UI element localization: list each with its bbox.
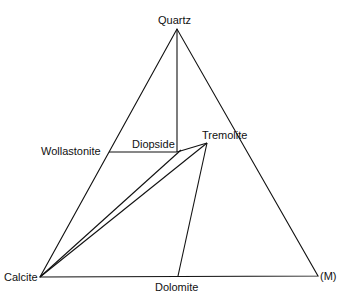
phase-label-tremolite: Tremolite [202,129,247,141]
tie-line-calcite-diopside [40,150,181,277]
vertex-label-calcite: Calcite [4,271,38,283]
phase-label-wollastonite: Wollastonite [41,145,101,157]
phase-label-diopside: Diopside [132,138,175,150]
tie-line-diopside-tremolite [177,143,207,152]
vertex-label-m: (M) [320,270,337,282]
vertex-label-quartz: Quartz [158,14,191,26]
phase-label-dolomite: Dolomite [155,281,198,293]
